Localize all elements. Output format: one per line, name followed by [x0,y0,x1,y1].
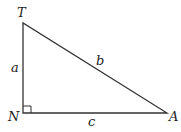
side-label-b: b [96,53,104,68]
vertex-label-t: T [17,5,27,20]
vertex-label-a: A [168,109,178,124]
vertex-label-n: N [7,109,20,124]
triangle-shape [23,23,167,113]
triangle-diagram: T N A a b c [0,0,181,132]
side-label-a: a [11,60,19,75]
side-label-c: c [88,114,96,129]
right-angle-marker [23,106,31,113]
